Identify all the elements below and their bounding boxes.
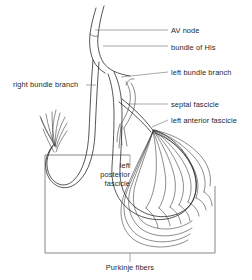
conduction-system-figure: AV node bundle of His left bundle branch…	[0, 0, 252, 280]
rbb-fiber-2	[46, 114, 55, 146]
label-bundle-of-his: bundle of His	[171, 43, 215, 52]
septal-twig-3	[124, 128, 127, 146]
av-node-right-wall	[98, 6, 130, 76]
pk-fiber-4	[153, 130, 191, 202]
label-left-posterior-line-3: fascicle	[62, 179, 130, 188]
label-purkinje-fibers: Purkinje fibers	[80, 263, 180, 272]
label-right-bundle-branch: right bundle branch	[13, 80, 78, 89]
pk-fiber-2	[153, 130, 205, 192]
pk-sweep-2	[129, 131, 192, 236]
conduction-trunk	[90, 6, 130, 76]
laf-stem-lower	[119, 102, 151, 132]
leader-left-bundle-branch	[121, 72, 168, 77]
septal-twig-4	[119, 125, 121, 148]
pk-fiber-5	[153, 130, 184, 205]
diagram-canvas	[0, 0, 252, 280]
pk-sweep-4	[121, 132, 188, 247]
left-bundle-branch-path	[108, 72, 196, 220]
rbb-fiber-9	[43, 129, 54, 152]
pk-sweep-3	[124, 132, 190, 242]
pk-curl-7	[204, 192, 212, 206]
label-left-posterior-line-1: left	[62, 161, 130, 170]
av-node-marker	[90, 34, 98, 36]
leader-left-anterior-fascicle	[152, 120, 168, 127]
pk-fiber-1	[153, 130, 211, 186]
purkinje-fiber-fan	[121, 130, 212, 247]
label-left-bundle-branch: left bundle branch	[171, 68, 232, 77]
rbb-fiber-5	[55, 117, 65, 146]
label-left-posterior-line-2: posterior	[62, 170, 130, 179]
label-left-anterior-fascicle: left anterior fascicle	[171, 116, 237, 125]
septal-fascicle-stem-left	[121, 82, 130, 124]
pk-curl-1	[196, 198, 206, 210]
label-av-node: AV node	[171, 26, 200, 35]
label-septal-fascicle: septal fascicle	[171, 100, 219, 109]
av-node-left-wall	[90, 8, 105, 73]
label-left-posterior-fascicle: left posterior fascicle	[62, 161, 130, 189]
pk-curl-2	[188, 202, 199, 216]
